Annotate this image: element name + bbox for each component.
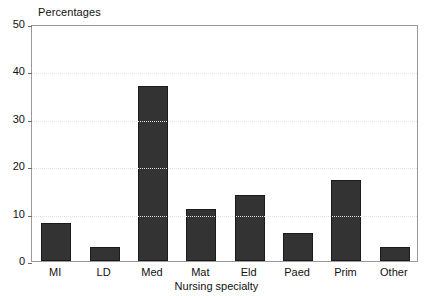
y-axis-label: Percentages [38, 6, 101, 18]
bar [235, 195, 265, 261]
bar [380, 247, 410, 261]
y-tick-label: 30 [0, 113, 25, 125]
gridline [32, 121, 417, 122]
gridline [32, 216, 417, 217]
bar [186, 209, 216, 261]
x-tick-label: Med [128, 266, 176, 278]
y-tick-mark [28, 168, 32, 169]
bar [138, 86, 168, 261]
bar [90, 247, 120, 261]
x-tick-label: Paed [273, 266, 321, 278]
x-tick-label: Other [370, 266, 418, 278]
x-axis-label: Nursing specialty [0, 280, 433, 292]
y-tick-label: 50 [0, 18, 25, 30]
x-tick-label: LD [79, 266, 127, 278]
y-tick-mark [28, 263, 32, 264]
y-tick-mark [28, 121, 32, 122]
y-tick-mark [28, 216, 32, 217]
bar-chart: Percentages 01020304050 MILDMedMatEldPae… [0, 0, 433, 296]
y-tick-label: 10 [0, 208, 25, 220]
bars-layer [32, 26, 417, 261]
bar [41, 223, 71, 261]
y-tick-mark [28, 73, 32, 74]
y-tick-mark [28, 26, 32, 27]
y-tick-label: 40 [0, 65, 25, 77]
x-tick-label: Mat [176, 266, 224, 278]
y-tick-label: 20 [0, 160, 25, 172]
x-tick-label: MI [31, 266, 79, 278]
x-tick-label: Prim [321, 266, 369, 278]
bar [331, 180, 361, 261]
y-tick-label: 0 [0, 255, 25, 267]
gridline [32, 168, 417, 169]
bar [283, 233, 313, 261]
gridline [32, 73, 417, 74]
x-tick-label: Eld [225, 266, 273, 278]
plot-area [31, 25, 418, 262]
